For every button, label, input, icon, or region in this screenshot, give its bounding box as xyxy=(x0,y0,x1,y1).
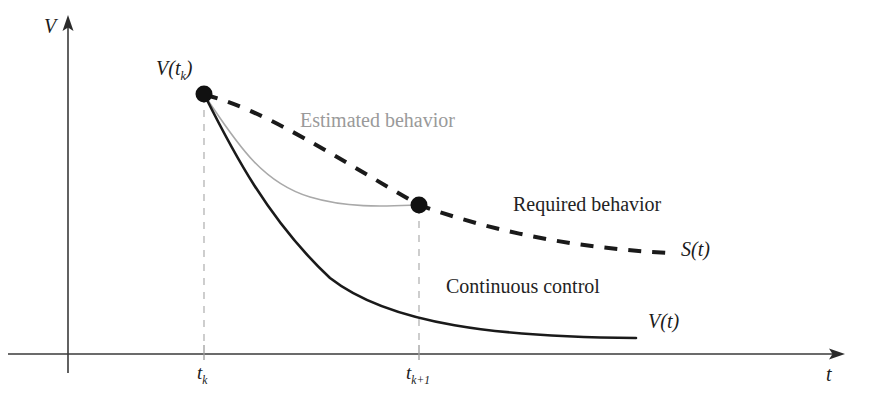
estimated-behavior-label: Estimated behavior xyxy=(300,110,455,130)
v-of-t-label: V(t) xyxy=(648,311,679,331)
point-tk1 xyxy=(411,197,428,214)
diagram-canvas xyxy=(0,0,873,401)
decay-curves-diagram: V t V(tk) tk tk+1 Estimated behavior Req… xyxy=(0,0,873,401)
tick-label-tk-sub: k xyxy=(202,374,207,386)
required-behavior-label: Required behavior xyxy=(513,194,661,214)
s-of-t-label: S(t) xyxy=(681,239,710,259)
tick-label-tk1-sub: k+1 xyxy=(411,374,430,386)
point-vtk-label-main: V(t xyxy=(156,57,180,79)
x-axis-label: t xyxy=(826,364,832,384)
tick-label-tk: tk xyxy=(197,363,207,386)
tick-label-tk1: tk+1 xyxy=(406,363,430,386)
curve-continuous-control xyxy=(205,96,636,338)
point-vtk-label-tail: ) xyxy=(186,57,193,79)
y-axis-label: V xyxy=(44,16,56,36)
continuous-control-label: Continuous control xyxy=(446,276,600,296)
tick-mark-group xyxy=(204,345,419,360)
point-vtk-label: V(tk) xyxy=(156,58,192,82)
point-vtk xyxy=(196,86,213,103)
